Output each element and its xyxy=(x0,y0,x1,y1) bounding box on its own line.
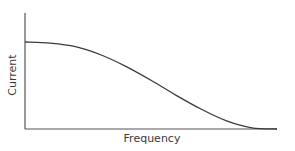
current-frequency-curve xyxy=(25,42,277,129)
y-axis-label: Current xyxy=(6,54,19,95)
x-axis-label: Frequency xyxy=(124,132,181,145)
chart-canvas xyxy=(0,0,295,151)
